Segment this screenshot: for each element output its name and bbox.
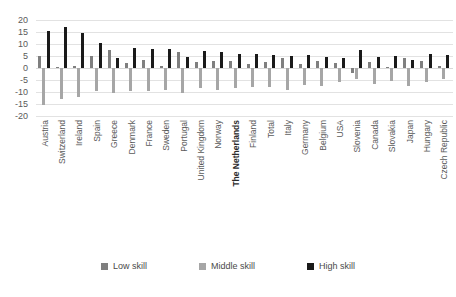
bar-group: [106, 20, 123, 116]
x-axis-label-cell: Ireland: [71, 118, 88, 238]
bar-mid: [181, 68, 184, 93]
bar-high: [238, 54, 241, 68]
bar-low: [212, 61, 215, 68]
x-axis-label-cell: Sweden: [158, 118, 175, 238]
x-axis-label-cell: Spain: [88, 118, 105, 238]
bar-low: [125, 63, 128, 68]
bar-low: [142, 60, 145, 68]
bar-mid: [338, 68, 341, 82]
x-axis-label: Norway: [214, 120, 223, 149]
bar-low: [73, 66, 76, 68]
x-axis-label-cell: Japan: [401, 118, 418, 238]
x-axis-label: Italy: [283, 120, 292, 136]
bar-mid: [268, 68, 271, 87]
bar-low: [247, 64, 250, 68]
legend-item: Low skill: [101, 262, 147, 271]
x-axis-label-cell: Belgium: [314, 118, 331, 238]
x-axis-label: The Netherlands: [231, 120, 240, 187]
legend-label: Low skill: [113, 262, 147, 271]
bar-group: [140, 20, 157, 116]
x-axis-label-cell: Slovakia: [384, 118, 401, 238]
bar-group: [349, 20, 366, 116]
x-axis-label: Portugal: [179, 120, 188, 152]
bar-low: [90, 56, 93, 68]
bar-high: [272, 55, 275, 68]
bar-high: [394, 56, 397, 68]
bar-mid: [77, 68, 80, 97]
bar-mid: [129, 68, 132, 91]
y-axis-tick-label: 5: [0, 52, 28, 61]
legend-label: High skill: [319, 262, 355, 271]
bar-low: [281, 58, 284, 68]
bar-low: [38, 56, 41, 68]
x-axis-label-cell: Finland: [245, 118, 262, 238]
bar-high: [116, 58, 119, 68]
x-axis-label: Finland: [249, 120, 258, 148]
bar-mid: [216, 68, 219, 90]
bar-high: [151, 49, 154, 68]
x-axis-label: Canada: [370, 120, 379, 150]
bar-low: [108, 50, 111, 68]
bar-high: [99, 43, 102, 68]
x-axis-label: France: [144, 120, 153, 146]
x-axis-label-cell: Italy: [279, 118, 296, 238]
bar-group: [401, 20, 418, 116]
bar-high: [290, 56, 293, 68]
plot-area: [36, 20, 453, 116]
bar-low: [299, 64, 302, 68]
legend-swatch: [199, 263, 206, 270]
bar-mid: [320, 68, 323, 86]
bar-high: [429, 54, 432, 68]
x-axis-label: Spain: [92, 120, 101, 142]
legend-item: Middle skill: [199, 262, 255, 271]
bar-groups: [36, 20, 453, 116]
x-axis-label: Switzerland: [58, 120, 67, 164]
bar-group: [123, 20, 140, 116]
bar-mid: [286, 68, 289, 90]
bar-group: [245, 20, 262, 116]
x-axis-category-labels: AustriaSwitzerlandIrelandSpainGreeceDenm…: [36, 118, 453, 238]
y-axis-tick-label: -10: [0, 88, 28, 97]
y-axis-tick-label: -5: [0, 76, 28, 85]
x-axis-label: Ireland: [75, 120, 84, 146]
x-axis-label: United Kingdom: [197, 120, 206, 180]
x-axis-label: Belgium: [318, 120, 327, 151]
bar-low: [56, 67, 59, 68]
x-axis-label: USA: [336, 120, 345, 137]
bar-group: [210, 20, 227, 116]
x-axis-label-cell: The Netherlands: [227, 118, 244, 238]
bar-high: [359, 50, 362, 68]
bar-mid: [60, 68, 63, 99]
bar-high: [133, 48, 136, 68]
bar-high: [186, 57, 189, 68]
bar-group: [53, 20, 70, 116]
bar-group: [436, 20, 453, 116]
x-axis-label: Austria: [40, 120, 49, 146]
bar-low: [195, 62, 198, 68]
x-axis-label: Germany: [301, 120, 310, 155]
x-axis-label: Czech Republic: [440, 120, 449, 180]
x-axis-label-cell: Switzerland: [53, 118, 70, 238]
bar-group: [331, 20, 348, 116]
bar-mid: [42, 68, 45, 105]
x-axis-label-cell: Greece: [106, 118, 123, 238]
bar-group: [227, 20, 244, 116]
bar-mid: [95, 68, 98, 91]
bar-low: [334, 63, 337, 68]
gridline: [36, 116, 453, 117]
x-axis-label-cell: Portugal: [175, 118, 192, 238]
x-axis-label: Sweden: [162, 120, 171, 151]
y-axis-tick-label: -20: [0, 112, 28, 121]
x-axis-label-cell: USA: [331, 118, 348, 238]
bar-mid: [164, 68, 167, 90]
bar-high: [325, 57, 328, 68]
x-axis-label-cell: France: [140, 118, 157, 238]
x-axis-label: Japan: [405, 120, 414, 143]
bar-group: [36, 20, 53, 116]
bar-mid: [407, 68, 410, 86]
chart-legend: Low skillMiddle skillHigh skill: [0, 262, 456, 271]
bar-low: [420, 61, 423, 68]
x-axis-label-cell: Austria: [36, 118, 53, 238]
bar-high: [255, 54, 258, 68]
y-axis-tick-label: 20: [0, 16, 28, 25]
